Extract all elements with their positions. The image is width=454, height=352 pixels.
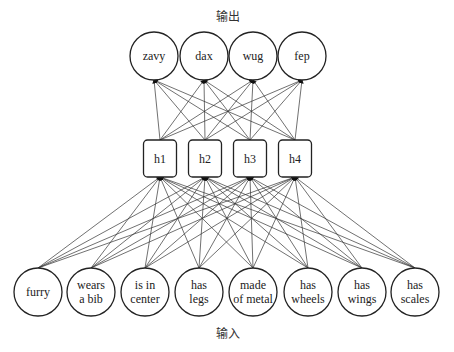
input-node: madeof metal (233, 278, 273, 306)
hidden-node: h4 (289, 152, 301, 166)
output-node: dax (195, 49, 212, 63)
input-layer-title: 输入 (216, 324, 240, 342)
network-diagram (0, 0, 454, 352)
output-layer-title: 输出 (216, 7, 240, 25)
input-node: furry (26, 285, 50, 299)
output-node: wug (243, 49, 264, 63)
input-node: wearsa bib (77, 278, 105, 306)
hidden-node: h2 (199, 152, 211, 166)
input-node: haswheels (291, 278, 324, 306)
input-node: haswings (348, 278, 377, 306)
output-node: fep (294, 49, 309, 63)
output-node: zavy (143, 49, 166, 63)
input-node: haslegs (189, 278, 208, 306)
input-node: is incenter (130, 278, 159, 306)
input-node: hasscales (401, 278, 430, 306)
hidden-node: h1 (154, 152, 166, 166)
hidden-node: h3 (244, 152, 256, 166)
